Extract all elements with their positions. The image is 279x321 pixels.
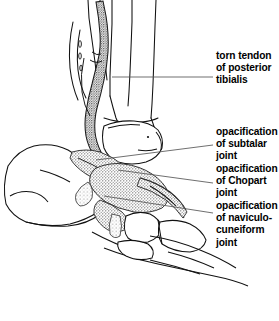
label-opacification-of-chopart-joint: opacification of Chopart joint bbox=[216, 163, 278, 200]
label-naviculo-line-3: cuneiform bbox=[216, 224, 278, 236]
label-subtalar-line-1: opacification bbox=[216, 126, 278, 138]
anatomy-figure: torn tendon of posterior tibialis opacif… bbox=[0, 0, 279, 321]
label-naviculo-line-4: joint bbox=[216, 237, 278, 249]
label-subtalar-line-2: of subtalar bbox=[216, 138, 278, 150]
label-naviculo-line-2: of naviculo- bbox=[216, 212, 278, 224]
label-opacification-of-naviculo-cuneiform-joint: opacification of naviculo- cuneiform joi… bbox=[216, 200, 278, 249]
label-subtalar-line-3: joint bbox=[216, 150, 278, 162]
label-naviculo-line-1: opacification bbox=[216, 200, 278, 212]
tarsal-contrast-spur-down bbox=[109, 214, 121, 238]
label-torn-tendon-line-2: of posterior bbox=[216, 62, 271, 74]
label-chopart-line-2: of Chopart bbox=[216, 175, 278, 187]
label-chopart-line-1: opacification bbox=[216, 163, 278, 175]
label-torn-tendon-line-1: torn tendon bbox=[216, 50, 271, 62]
label-torn-tendon-of-posterior-tibialis: torn tendon of posterior tibialis bbox=[216, 50, 271, 87]
label-opacification-of-subtalar-joint: opacification of subtalar joint bbox=[216, 126, 278, 163]
label-torn-tendon-line-3: tibialis bbox=[216, 74, 271, 86]
label-chopart-line-3: joint bbox=[216, 187, 278, 199]
talus-detail-dot bbox=[147, 136, 149, 138]
